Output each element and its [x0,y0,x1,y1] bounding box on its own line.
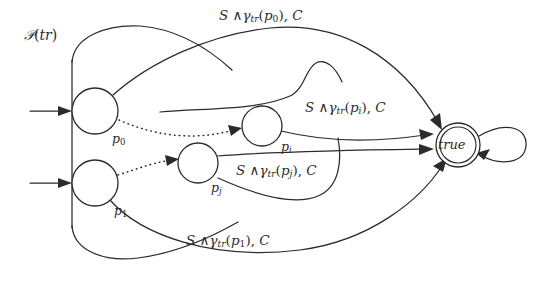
transition-label-pj-comma: , [298,162,307,178]
dotted-path-p1-pj-head [165,155,179,166]
region-label-paren-close: ) [52,27,57,43]
dotted-path-p0-pi [119,120,234,136]
state-circle-p0[interactable] [72,88,118,134]
automaton-diagram: 𝒫(tr) p0 p1 pj pi true S ∧γtr(p0), C S ∧… [0,0,543,281]
state-circle-pj[interactable] [178,143,218,183]
transition-label-pi: S ∧γtr(pi), C [305,101,386,115]
state-label-pj: pj [211,182,222,195]
dotted-path-p0-pi-head [228,125,242,136]
transition-label-p1: S ∧γtr(p1), C [186,234,270,248]
state-label-p0-sub: 0 [120,137,125,147]
state-circle-p1[interactable] [72,160,118,206]
transition-label-p0-guard: S [219,7,228,23]
state-label-pi-sub: i [289,145,292,155]
transition-label-pi-guard: S [305,99,314,115]
state-label-p1-base: p [114,203,122,218]
transition-edge-p1-true [110,166,442,252]
transition-label-p1-gamma-sub: tr [218,238,226,249]
state-label-pi: pi [281,141,292,154]
transition-label-pi-gamma-sub: tr [337,105,345,116]
transition-label-pj-conj: ∧ [250,162,260,178]
transition-label-pj-arg: p [281,162,290,178]
transition-label-p0-conj: ∧ [233,7,243,23]
transition-arrowhead-pi-true [419,129,434,140]
transition-label-p0-gamma: γ [242,7,250,23]
transition-label-pj-gamma: γ [259,162,267,178]
transition-arrowhead-p0-true [430,113,442,130]
transition-label-p0-gamma-sub: tr [251,13,259,24]
transition-label-pj-gamma-sub: tr [268,168,276,179]
state-label-pj-base: p [211,180,219,195]
transition-edge-pj-true [217,149,424,156]
state-label-p1-sub: 1 [122,209,127,219]
region-label-ptr: 𝒫(tr) [24,28,57,42]
transition-label-pj: S ∧γtr(pj), C [236,164,317,178]
state-label-pi-base: p [281,139,289,154]
transition-label-p1-arg: p [231,232,240,248]
state-label-pj-sub: j [219,186,222,196]
transition-label-pi-conj: ∧ [319,99,329,115]
transition-label-pj-guard: S [236,162,245,178]
transition-edge-pi-true [281,131,425,140]
state-circle-pi[interactable] [242,106,282,146]
region-top-lobe [72,26,232,70]
transition-label-p0-arg: p [264,7,273,23]
state-label-true-text: true [438,137,466,152]
transition-label-p0-comma: , [284,7,293,23]
transition-label-pi-action: C [375,99,385,115]
region-label-p: 𝒫 [24,27,34,43]
transition-label-p1-conj: ∧ [200,232,210,248]
initial-arrow-p0-head [58,106,72,116]
transition-label-pj-action: C [306,162,316,178]
transition-edge-p0-true [113,27,438,122]
state-label-true: true [438,138,466,151]
self-loop-true [479,127,526,161]
state-label-p0-base: p [112,131,120,146]
transition-arrowhead-pj-true [419,144,434,155]
state-label-p1: p1 [114,205,127,218]
transition-label-p1-comma: , [251,232,260,248]
initial-arrow-p1-head [58,178,72,188]
transition-label-p0-action: C [292,7,302,23]
transition-label-p1-action: C [259,232,269,248]
transition-label-p1-guard: S [186,232,195,248]
transition-label-pi-arg: p [350,99,359,115]
transition-label-p1-gamma: γ [209,232,217,248]
transition-label-pi-gamma: γ [328,99,336,115]
dotted-path-p1-pj [118,160,172,175]
region-label-tr: tr [39,27,51,43]
state-label-p0: p0 [112,133,125,146]
transition-label-p0: S ∧γtr(p0), C [219,9,303,23]
